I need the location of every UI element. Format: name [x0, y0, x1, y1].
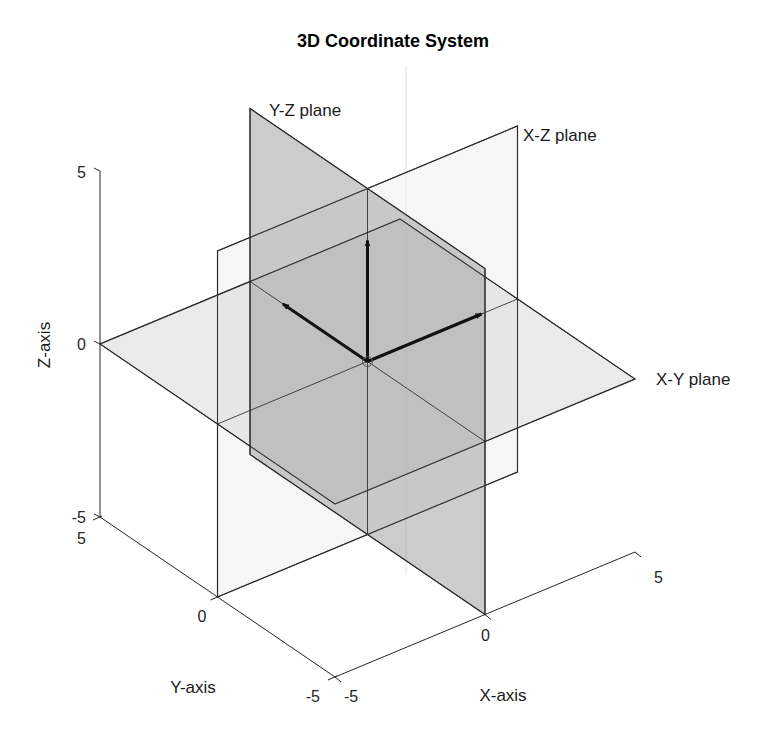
z-tick-neg5: -5 — [72, 509, 86, 526]
z-tick-mark — [94, 341, 100, 344]
y-tick-0: 0 — [198, 608, 207, 625]
z-tick-mark — [94, 514, 100, 517]
x-tick-0: 0 — [481, 627, 490, 644]
x-axis-label: X-axis — [479, 686, 526, 705]
xy-plane-label: X-Y plane — [656, 370, 730, 389]
chart-canvas: 3D Coordinate System 5 0 -5 5 0 -5 -5 0 … — [0, 0, 784, 741]
z-tick-0: 0 — [77, 336, 86, 353]
xz-plane-label: X-Z plane — [523, 126, 597, 145]
y-tick-neg5: -5 — [306, 688, 320, 705]
x-tick-mark — [485, 615, 491, 620]
z-tick-5: 5 — [77, 164, 86, 181]
x-tick-mark — [335, 677, 341, 682]
z-tick-mark — [94, 168, 100, 171]
yz-plane-label: Y-Z plane — [269, 101, 341, 120]
x-tick-5: 5 — [654, 569, 663, 586]
y-axis-label: Y-axis — [170, 678, 216, 697]
z-axis-label: Z-axis — [35, 322, 54, 368]
y-tick-5: 5 — [77, 530, 86, 547]
x-tick-neg5: -5 — [344, 688, 358, 705]
x-tick-mark — [635, 552, 641, 557]
chart-title: 3D Coordinate System — [297, 31, 489, 51]
